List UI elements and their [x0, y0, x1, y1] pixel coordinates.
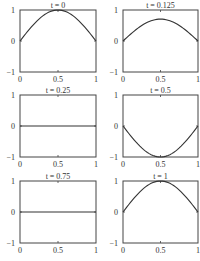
chart-grid: t = 010−100.51t = 0.12510−100.51t = 0.25… — [0, 0, 200, 261]
y-tick-label: 0 — [11, 122, 15, 131]
plot-frame — [123, 181, 198, 243]
data-line — [123, 126, 198, 157]
panel-title: t = 0 — [51, 1, 66, 10]
y-tick-label: 0 — [114, 208, 118, 217]
x-tick-label: 1 — [196, 75, 200, 84]
x-tick-label: 0 — [18, 246, 22, 255]
y-tick-label: 0 — [114, 122, 118, 131]
x-tick-label: 0.5 — [53, 160, 63, 169]
y-tick-label: −1 — [109, 68, 118, 77]
y-tick-label: −1 — [6, 153, 15, 162]
panel-title: t = 0.5 — [150, 86, 171, 95]
x-tick-label: 0 — [121, 75, 125, 84]
y-tick-label: −1 — [6, 239, 15, 248]
x-tick-label: 1 — [94, 160, 98, 169]
data-line — [123, 181, 198, 212]
y-tick-label: −1 — [109, 153, 118, 162]
data-line — [20, 10, 96, 41]
x-tick-label: 0.5 — [156, 75, 166, 84]
x-tick-label: 0 — [18, 75, 22, 84]
x-tick-label: 0.5 — [156, 160, 166, 169]
y-tick-label: 1 — [11, 91, 15, 100]
x-tick-label: 1 — [196, 160, 200, 169]
y-tick-label: 1 — [11, 6, 15, 15]
y-tick-label: 1 — [11, 177, 15, 186]
plot-frame — [123, 95, 198, 157]
data-line — [123, 19, 198, 41]
y-tick-label: 1 — [114, 177, 118, 186]
x-tick-label: 1 — [196, 246, 200, 255]
y-tick-label: 0 — [114, 37, 118, 46]
plot-panel-4: t = 0.510−100.51 — [109, 86, 200, 169]
plot-frame — [20, 10, 96, 72]
y-tick-label: 0 — [11, 208, 15, 217]
x-tick-label: 0 — [121, 246, 125, 255]
panel-title: t = 0.25 — [46, 86, 71, 95]
panel-title: t = 0.75 — [46, 172, 71, 181]
x-tick-label: 0.5 — [156, 246, 166, 255]
x-tick-label: 0.5 — [53, 75, 63, 84]
plot-panel-6: t = 110−100.51 — [109, 172, 200, 255]
plot-panel-5: t = 0.7510−100.51 — [6, 172, 98, 255]
y-tick-label: −1 — [6, 68, 15, 77]
plot-panel-2: t = 0.12510−100.51 — [109, 1, 200, 84]
y-tick-label: 1 — [114, 91, 118, 100]
x-tick-label: 0 — [18, 160, 22, 169]
x-tick-label: 1 — [94, 246, 98, 255]
y-tick-label: −1 — [109, 239, 118, 248]
panel-title: t = 1 — [153, 172, 168, 181]
panel-title: t = 0.125 — [146, 1, 175, 10]
x-tick-label: 1 — [94, 75, 98, 84]
x-tick-label: 0 — [121, 160, 125, 169]
plot-panel-3: t = 0.2510−100.51 — [6, 86, 98, 169]
plot-panel-1: t = 010−100.51 — [6, 1, 98, 84]
y-tick-label: 1 — [114, 6, 118, 15]
x-tick-label: 0.5 — [53, 246, 63, 255]
y-tick-label: 0 — [11, 37, 15, 46]
